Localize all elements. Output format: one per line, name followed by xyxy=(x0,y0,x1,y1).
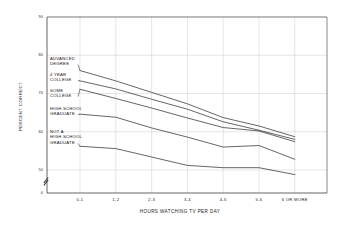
series-label-line: COLLEGE xyxy=(50,77,72,82)
series-label-2: 4 YEARCOLLEGE xyxy=(50,72,72,83)
series-label-5: NOT AHIGH SCHOOLGRADUATE xyxy=(50,129,82,145)
x-axis-title: HOURS WATCHING TV PER DAY xyxy=(40,209,320,214)
plot-frame xyxy=(47,17,327,193)
axis-break-icon xyxy=(44,178,48,186)
series-label-line: GRADUATE xyxy=(50,140,82,145)
y-tick-label: 90 xyxy=(27,15,43,19)
y-tick-label: 50 xyxy=(27,168,43,172)
series-label-4: HIGH SCHOOLGRADUATE xyxy=(50,106,82,117)
y-axis-title: PERCENT CORRECT xyxy=(18,57,23,157)
gridlines xyxy=(47,17,327,193)
y-tick-label: 70 xyxy=(27,91,43,95)
y-tick-label: 60 xyxy=(27,130,43,134)
series-label-line: COLLEGE xyxy=(50,93,72,98)
series-label-3: SOMECOLLEGE xyxy=(50,88,72,99)
y-tick-label: 80 xyxy=(27,53,43,57)
series-label-line: DEGREE xyxy=(50,61,75,66)
x-tick-label: 6 OR MORE xyxy=(271,197,319,202)
series-label-line: GRADUATE xyxy=(50,111,82,116)
series-label-line: HIGH SCHOOL xyxy=(50,134,82,139)
y-tick-label: 0 xyxy=(27,191,43,195)
chart-figure: 90807060500 0-11-22-33-44-55-66 OR MORE … xyxy=(0,0,347,230)
series-label-1: ADVANCEDDEGREE xyxy=(50,56,75,67)
